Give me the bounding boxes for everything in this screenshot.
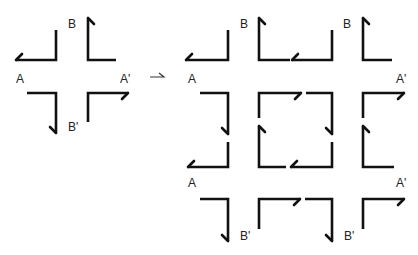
left-figure: B A A' B' — [16, 17, 130, 134]
edge-r1-c2a — [259, 18, 290, 60]
edge-bottom-left — [27, 93, 56, 133]
transform-arrow-icon — [150, 73, 164, 77]
label-b-right: B — [343, 17, 351, 31]
edge-top-right — [88, 18, 116, 60]
label-a-bottom: A — [188, 176, 196, 190]
edge-bottom-right — [88, 93, 128, 122]
edge-r1-c2b — [292, 30, 332, 60]
edge-r2-c3 — [363, 93, 404, 167]
edge-r3-c1 — [200, 199, 228, 241]
label-a-prime-bottom: A' — [396, 176, 406, 190]
label-a-prime: A' — [120, 72, 130, 86]
edge-r3-c2a — [259, 199, 300, 229]
label-a-top: A — [188, 72, 196, 86]
edge-top-left — [16, 30, 56, 60]
label-a-prime-top: A' — [396, 72, 406, 86]
edge-r2-c1 — [188, 93, 228, 167]
right-figure: B B A A' A A' B' B' — [186, 17, 406, 243]
label-b: B — [68, 17, 76, 31]
label-b-prime-right: B' — [344, 229, 354, 243]
edge-r3-c3 — [363, 199, 404, 229]
edge-r1-c3 — [363, 18, 392, 60]
label-b-left: B — [240, 17, 248, 31]
tiling-diagram: B A A' B' — [0, 0, 418, 255]
edge-r3-c2b — [305, 199, 332, 241]
label-b-prime: B' — [68, 120, 78, 134]
edge-r1-c1 — [186, 30, 228, 60]
label-a: A — [16, 72, 24, 86]
edge-r2-center-square — [259, 93, 332, 167]
label-b-prime-left: B' — [240, 229, 250, 243]
